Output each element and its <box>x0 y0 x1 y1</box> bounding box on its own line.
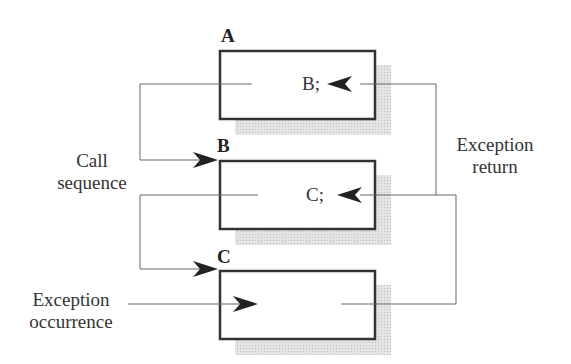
exception-occurrence-label: Exception occurrence <box>16 289 126 333</box>
box-a-title: A <box>221 25 235 47</box>
box-a <box>220 51 375 119</box>
call-sequence-line2: sequence <box>44 172 140 194</box>
call-sequence-label: Call sequence <box>44 150 140 194</box>
exception-return-label: Exception return <box>440 134 550 178</box>
box-b-statement: C; <box>306 184 324 206</box>
box-b-title: B <box>217 135 230 157</box>
exception-occurrence-line2: occurrence <box>16 311 126 333</box>
call-sequence-line1: Call <box>44 150 140 172</box>
box-a-statement: B; <box>302 73 320 95</box>
box-c-title: C <box>217 246 231 268</box>
exception-return-line2: return <box>440 156 550 178</box>
exception-return-line1: Exception <box>440 134 550 156</box>
exception-occurrence-line1: Exception <box>16 289 126 311</box>
